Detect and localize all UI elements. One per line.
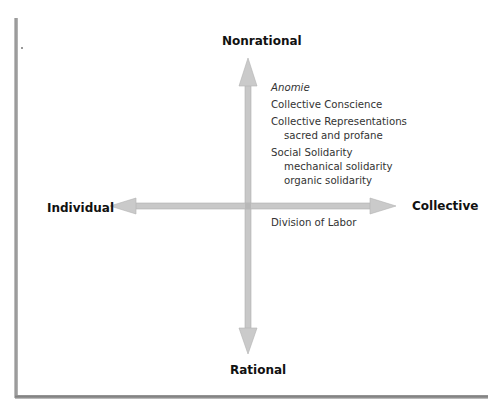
concept-social-solidarity: Social Solidarity mechanical solidarity … [271, 146, 407, 188]
concept-anomie: Anomie [271, 81, 407, 95]
concept-title: Collective Conscience [271, 98, 407, 112]
concept-list-collective-nonrational: Anomie Collective Conscience Collective … [271, 81, 407, 191]
concept-title: Collective Representations [271, 115, 407, 129]
axis-label-collective: Collective [412, 199, 478, 213]
axis-label-rational: Rational [230, 363, 286, 377]
concept-collective-representations: Collective Representations sacred and pr… [271, 115, 407, 143]
concept-subitem: organic solidarity [271, 174, 407, 188]
arrowhead-down-icon [239, 328, 257, 354]
axes-intersection [245, 203, 251, 209]
axis-label-individual: Individual [47, 201, 114, 215]
arrowhead-up-icon [239, 58, 257, 86]
arrowhead-right-icon [370, 198, 396, 214]
concept-title: Social Solidarity [271, 146, 407, 160]
concept-subitem: sacred and profane [271, 129, 407, 143]
concept-title: Anomie [271, 81, 407, 95]
horizontal-axis-arrow [110, 198, 396, 214]
concept-collective-conscience: Collective Conscience [271, 98, 407, 112]
concept-division-of-labor: Division of Labor [271, 217, 356, 228]
axis-label-nonrational: Nonrational [222, 34, 302, 48]
concept-subitem: mechanical solidarity [271, 160, 407, 174]
